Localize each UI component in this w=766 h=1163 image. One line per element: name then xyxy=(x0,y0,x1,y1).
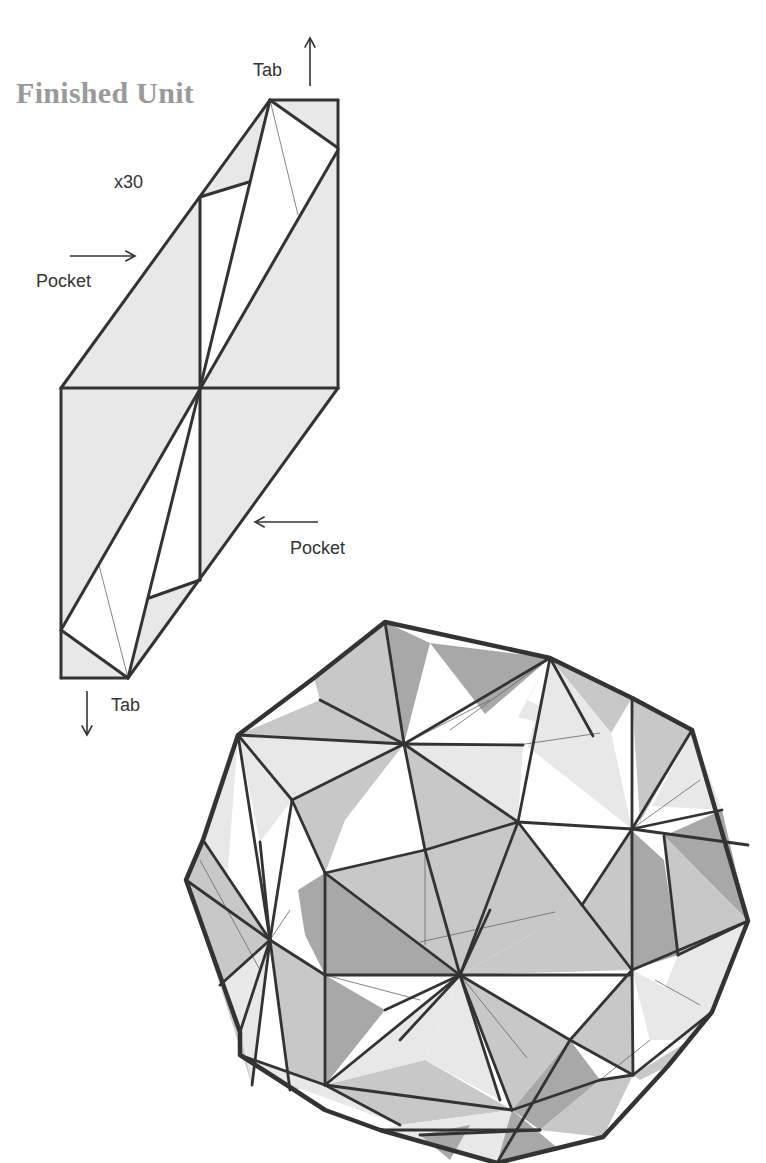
assembled-polyhedron-figure xyxy=(186,622,748,1163)
edge-line xyxy=(632,970,633,1075)
tab-bottom-label: Tab xyxy=(111,695,140,716)
finished-unit-figure xyxy=(61,100,338,678)
tab-top-label: Tab xyxy=(253,60,282,81)
pocket-left-arrow xyxy=(255,517,318,528)
pocket-right-arrow xyxy=(70,251,135,262)
tab-up-arrow xyxy=(305,38,316,86)
tab-down-arrow xyxy=(82,691,93,735)
pocket-right-label: Pocket xyxy=(290,538,345,559)
origami-diagram: Finished Unit Tab x30 Pocket Pocket Tab xyxy=(0,0,766,1163)
edge-line xyxy=(404,744,523,745)
multiplier-label: x30 xyxy=(114,172,143,193)
pocket-left-label: Pocket xyxy=(36,271,91,292)
diagram-title: Finished Unit xyxy=(16,76,194,110)
